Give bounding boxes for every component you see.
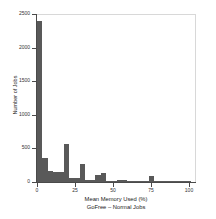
histogram-bars bbox=[37, 14, 195, 182]
x-axis-line bbox=[36, 182, 196, 183]
y-tick-label: 0 bbox=[27, 179, 30, 184]
y-tick-mark bbox=[32, 48, 36, 49]
histogram-bar bbox=[64, 144, 69, 182]
y-tick-mark bbox=[32, 81, 36, 82]
y-tick-label: 1500 bbox=[19, 78, 30, 83]
x-tick-label: 0 bbox=[27, 188, 47, 193]
y-tick-mark bbox=[32, 14, 36, 15]
y-axis-line bbox=[36, 14, 37, 183]
y-tick-mark bbox=[32, 148, 36, 149]
y-axis-title: Number of Jobs bbox=[12, 50, 18, 140]
x-tick-label: 75 bbox=[141, 188, 161, 193]
x-tick-label: 100 bbox=[179, 188, 199, 193]
y-tick-mark bbox=[32, 182, 36, 183]
y-tick-label: 1000 bbox=[19, 112, 30, 117]
plot-frame-right-border bbox=[195, 14, 196, 183]
x-axis-title: Mean Memory Used (%) bbox=[36, 196, 196, 202]
x-tick-label: 50 bbox=[103, 188, 123, 193]
x-axis-subtitle: GoFree – Normal Jobs bbox=[36, 204, 196, 210]
y-tick-label: 2000 bbox=[19, 45, 30, 50]
y-tick-label: 2500 bbox=[19, 11, 30, 16]
y-tick-label: 500 bbox=[22, 145, 30, 150]
histogram-figure: 05001000150020002500 0255075100 Number o… bbox=[0, 0, 216, 219]
y-tick-mark bbox=[32, 115, 36, 116]
x-tick-label: 25 bbox=[65, 188, 85, 193]
